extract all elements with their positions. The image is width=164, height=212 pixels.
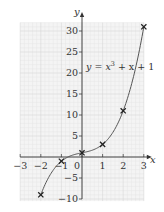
function-graph: −3−2−10123−10−551015202530 y = x3 + x + … <box>0 0 164 212</box>
svg-text:−3: −3 <box>13 160 27 171</box>
svg-text:2: 2 <box>120 160 126 171</box>
equation-label: y = x3 + x + 1 <box>85 60 154 72</box>
svg-text:−5: −5 <box>64 172 78 183</box>
svg-text:1: 1 <box>100 160 106 171</box>
svg-text:30: 30 <box>66 25 78 36</box>
svg-text:15: 15 <box>66 88 78 99</box>
svg-text:10: 10 <box>66 109 78 120</box>
svg-text:5: 5 <box>72 130 78 141</box>
svg-text:3: 3 <box>141 160 147 171</box>
y-axis-label: y <box>73 6 80 17</box>
svg-text:−2: −2 <box>34 160 48 171</box>
x-axis-label: x <box>150 154 156 165</box>
svg-text:0: 0 <box>74 160 80 171</box>
svg-text:20: 20 <box>66 67 78 78</box>
svg-text:25: 25 <box>66 46 78 57</box>
svg-text:−10: −10 <box>58 193 78 204</box>
